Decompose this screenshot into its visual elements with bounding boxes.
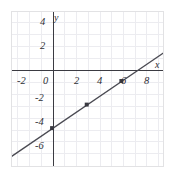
ytick-label: -4 [35, 117, 44, 128]
x-axis-label: x [155, 60, 159, 70]
xtick-label: 8 [144, 76, 149, 87]
xtick-label: 4 [97, 76, 102, 87]
plot-area [11, 11, 164, 167]
ytick-label: -6 [35, 141, 44, 152]
chart-screenshot: -2 0 2 4 6 8 4 2 -2 -4 -6 y x [0, 0, 175, 178]
ytick-label: -2 [35, 93, 44, 104]
xtick-label: -2 [17, 76, 26, 87]
y-axis-label: y [54, 13, 58, 23]
data-point-marker [85, 103, 89, 107]
ytick-label: 4 [40, 17, 45, 28]
xtick-label: 2 [74, 76, 79, 87]
data-point-marker [50, 126, 54, 130]
xtick-label: 6 [121, 76, 126, 87]
xtick-label: 0 [43, 76, 48, 87]
ytick-label: 2 [40, 41, 45, 52]
